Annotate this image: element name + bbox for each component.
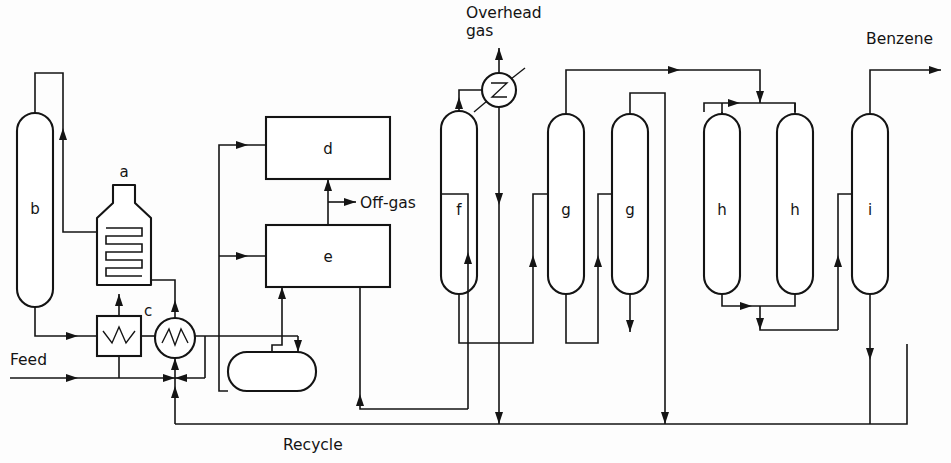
pipe-h-outlet-to-column-i (834, 194, 852, 330)
pipe-b-bottom-to-exchanger-c (35, 307, 97, 340)
pipe-e-bottom-to-f-riser (356, 287, 468, 409)
unit-d: d (266, 117, 390, 179)
overhead-gas-label-line2: gas (466, 22, 493, 40)
pipe-i-bottoms-to-recycle (866, 294, 874, 424)
pipe-g2-bottoms-product (626, 294, 634, 332)
pipe-round-exchanger-bottom-riser (171, 358, 179, 378)
pipe-benzene-product: Benzene (866, 30, 941, 114)
column-g1: g (548, 114, 584, 294)
pipe-drum-bottom-left (219, 378, 228, 391)
pipe-recycle-riser-to-feed (171, 378, 179, 424)
column-f-label: f (456, 201, 462, 219)
recycle-label: Recycle (283, 436, 343, 454)
pipe-h-outlet-header (722, 294, 838, 330)
column-h1: h (704, 114, 740, 294)
off-gas-label: Off-gas (360, 194, 416, 212)
process-flow-diagram: b a c d e (0, 0, 951, 463)
column-f: f (441, 111, 477, 294)
horizontal-drum (228, 352, 316, 391)
fired-heater-a-label: a (119, 163, 128, 181)
column-h2-label: h (790, 201, 800, 219)
column-b: b (17, 113, 53, 307)
pipe-heater-a-outlet (151, 280, 179, 318)
pipe-exchanger-to-drum (294, 336, 302, 352)
pipe-condenser-downcomer-to-recycle (495, 107, 503, 424)
column-h2: h (777, 114, 813, 294)
pipe-drum-to-e (272, 287, 286, 352)
column-i-label: i (868, 201, 872, 219)
pipe-overhead-gas-out: Overhead gas (466, 4, 542, 73)
fired-heater-a: a (97, 163, 151, 286)
feed-label: Feed (10, 351, 47, 369)
column-g2-label: g (625, 201, 635, 219)
pipe-off-gas: Off-gas (328, 194, 416, 212)
column-g1-label: g (561, 201, 571, 219)
unit-d-label: d (323, 140, 333, 158)
pipe-h-inlet-header (704, 99, 795, 114)
overhead-gas-label-line1: Overhead (466, 4, 542, 22)
column-g2: g (612, 114, 648, 294)
heat-exchanger-c: c (97, 302, 152, 357)
pfd-canvas: b a c d e (0, 0, 951, 463)
column-b-label: b (30, 200, 40, 218)
column-i: i (852, 114, 888, 294)
pipe-left-riser-header (219, 141, 266, 378)
shell-and-tube-exchanger-round (155, 318, 195, 358)
unit-e: e (266, 225, 390, 287)
column-h1-label: h (717, 201, 727, 219)
heat-exchanger-c-label: c (144, 302, 152, 320)
unit-e-label: e (323, 248, 332, 266)
benzene-label: Benzene (866, 30, 933, 48)
